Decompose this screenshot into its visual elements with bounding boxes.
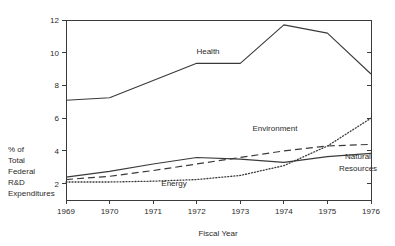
series-line-energy: [66, 118, 371, 182]
x-tick-label-1973: 1973: [231, 207, 249, 216]
y-axis-title-line-2: Federal: [8, 167, 35, 176]
x-tick-label-1975: 1975: [319, 207, 337, 216]
y-tick-labels: 24681012: [50, 16, 59, 189]
y-tick-label-8: 8: [55, 81, 60, 90]
y-tick-label-12: 12: [50, 16, 59, 25]
series-label-energy: Energy: [161, 179, 186, 188]
x-tick-labels: 19691970197119721973197419751976: [57, 207, 380, 216]
line-chart: 24681012 1969197019711972197319741975197…: [0, 0, 395, 246]
y-tick-label-6: 6: [55, 114, 60, 123]
y-tick-label-4: 4: [55, 147, 60, 156]
series-label-environment: Environment: [253, 124, 299, 133]
x-tick-label-1971: 1971: [144, 207, 162, 216]
x-tick-marks: [66, 200, 371, 204]
x-axis-title: Fiscal Year: [198, 229, 237, 238]
y-axis-title-line-3: R&D: [8, 178, 25, 187]
x-tick-label-1970: 1970: [101, 207, 119, 216]
x-tick-label-1976: 1976: [362, 207, 380, 216]
series-line-health: [66, 25, 371, 100]
y-tick-marks-left: [62, 20, 66, 184]
series-line-environment: [66, 144, 371, 179]
x-tick-label-1974: 1974: [275, 207, 293, 216]
y-axis-title-line-0: % of: [8, 145, 25, 154]
series-label-natural-resources-line-1: Resources: [339, 164, 377, 173]
series-label-health: Health: [196, 47, 219, 56]
y-axis-title-line-4: Expenditures: [8, 189, 55, 198]
series-line-natural-resources: [66, 153, 371, 177]
y-axis-title-line-1: Total: [8, 156, 25, 165]
figure-container: 24681012 1969197019711972197319741975197…: [0, 0, 395, 246]
x-tick-label-1969: 1969: [57, 207, 75, 216]
y-tick-label-2: 2: [55, 180, 60, 189]
x-tick-label-1972: 1972: [188, 207, 206, 216]
y-axis-title: % of Total Federal R&D Expenditures: [8, 145, 55, 198]
y-tick-label-10: 10: [50, 49, 59, 58]
series-label-natural-resources-line-0: Natural: [345, 152, 371, 161]
